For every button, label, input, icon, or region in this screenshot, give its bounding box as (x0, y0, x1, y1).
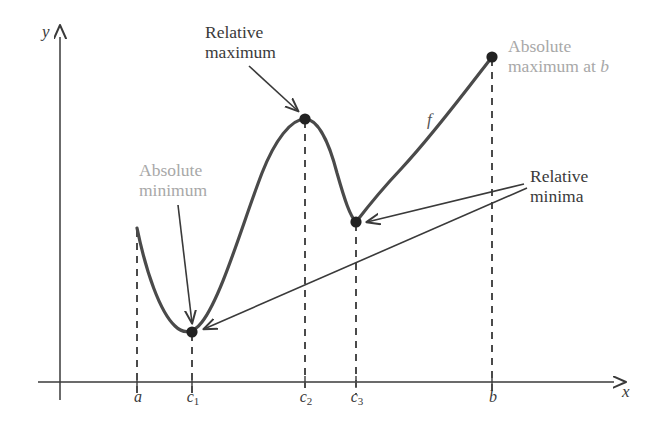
point-relative-minimum (350, 216, 361, 227)
annotation-absolute-minimum: Absolute minimum (139, 160, 207, 201)
absolute-maximum-variable: b (600, 56, 609, 76)
curve-label-f: f (427, 110, 432, 130)
x-axis-label: x (622, 382, 630, 402)
extrema-figure: y x a c1 c2 c3 b f Relative maximum Abso… (0, 0, 669, 434)
relative-maximum-line-1: Relative (205, 22, 276, 42)
arrow-to-relative-minimum-c3 (367, 184, 524, 222)
relative-minima-line-1: Relative (530, 166, 588, 186)
annotation-arrows (178, 66, 527, 329)
annotation-relative-minima: Relative minima (530, 166, 588, 207)
tick-label-a: a (134, 388, 142, 407)
arrow-to-relative-maximum (249, 66, 298, 111)
tick-label-b: b (489, 388, 497, 407)
relative-minima-line-2: minima (530, 186, 588, 206)
arrow-to-absolute-minimum (178, 205, 192, 323)
absolute-maximum-line-1: Absolute (508, 36, 609, 56)
point-absolute-minimum (186, 326, 197, 337)
annotation-relative-maximum: Relative maximum (205, 22, 276, 63)
absolute-minimum-line-2: minimum (139, 180, 207, 200)
absolute-minimum-line-1: Absolute (139, 160, 207, 180)
point-absolute-maximum (486, 51, 497, 62)
tick-label-c3: c3 (351, 388, 364, 407)
absolute-maximum-line-2: maximum at b (508, 56, 609, 76)
y-axis-label: y (42, 22, 50, 42)
tick-label-c1: c1 (187, 388, 200, 407)
annotation-absolute-maximum: Absolute maximum at b (508, 36, 609, 77)
tick-label-c2: c2 (300, 388, 313, 407)
relative-maximum-line-2: maximum (205, 42, 276, 62)
point-relative-maximum (299, 113, 310, 124)
